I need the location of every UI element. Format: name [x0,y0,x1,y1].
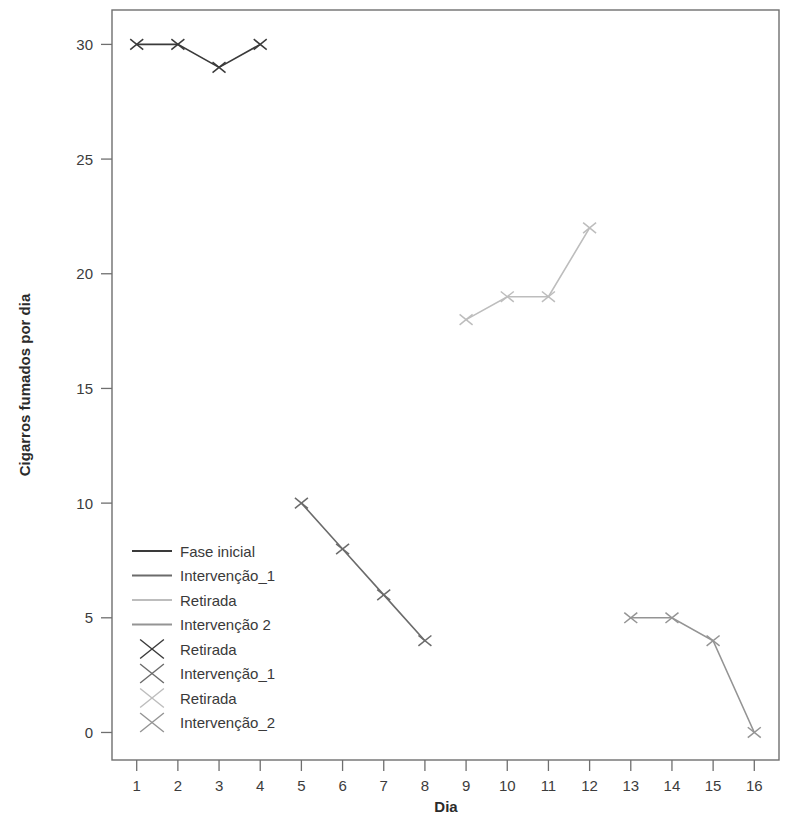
y-tick-label: 5 [85,609,93,626]
data-point-marker [213,62,226,72]
x-tick-label: 15 [705,777,722,794]
legend-item[interactable]: Intervenção_1 [140,664,275,683]
y-tick-label: 25 [76,151,93,168]
x-tick-label: 16 [746,777,763,794]
x-tick-label: 13 [622,777,639,794]
x-tick-label: 3 [215,777,223,794]
legend-item-label: Intervenção_2 [180,714,275,731]
y-axis-title: Cigarros fumados por dia [16,293,33,476]
data-point-marker [377,590,390,600]
data-series [460,223,597,325]
line-chart: 051015202530 12345678910111213141516 Fas… [0,0,797,840]
legend-item[interactable]: Retirada [140,689,237,708]
x-tick-label: 7 [380,777,388,794]
data-point-marker [254,39,267,49]
legend-item-label: Intervenção 2 [180,616,271,633]
x-axis-ticks: 12345678910111213141516 [133,760,763,794]
legend-marker-swatch [140,713,164,732]
series-line [466,228,590,320]
legend-item-label: Retirada [180,641,237,658]
y-tick-label: 10 [76,495,93,512]
x-tick-label: 12 [581,777,598,794]
x-tick-label: 11 [541,777,557,794]
legend-item[interactable]: Retirada [132,592,237,609]
x-tick-label: 8 [421,777,429,794]
data-point-marker [418,636,431,646]
x-tick-label: 5 [297,777,305,794]
x-tick-label: 4 [256,777,264,794]
y-tick-label: 20 [76,265,93,282]
x-tick-label: 1 [133,777,141,794]
data-point-marker [336,544,349,554]
data-series [624,613,761,738]
data-point-marker [295,498,308,508]
data-point-marker [583,223,596,233]
legend-marker-swatch [140,689,164,708]
data-series [130,39,267,72]
legend-item[interactable]: Retirada [140,640,237,659]
legend-marker-swatch [140,640,164,659]
data-point-marker [460,314,473,324]
x-tick-label: 6 [338,777,346,794]
x-tick-label: 14 [664,777,681,794]
legend-item-label: Intervenção_1 [180,665,275,682]
data-point-marker [748,727,761,737]
legend-item[interactable]: Intervenção_1 [132,567,275,584]
legend-item[interactable]: Fase inicial [132,543,255,560]
data-point-marker [707,636,720,646]
legend-item[interactable]: Intervenção 2 [132,616,271,633]
data-series [295,498,432,646]
legend-item-label: Intervenção_1 [180,567,275,584]
chart-legend: Fase inicialIntervenção_1RetiradaInterve… [132,543,275,733]
y-axis-ticks: 051015202530 [76,36,112,741]
legend-item-label: Retirada [180,592,237,609]
legend-item-label: Fase inicial [180,543,255,560]
series-line [631,618,755,733]
legend-item[interactable]: Intervenção_2 [140,713,275,732]
x-tick-label: 9 [462,777,470,794]
x-tick-label: 2 [174,777,182,794]
y-tick-label: 15 [76,380,93,397]
legend-item-label: Retirada [180,690,237,707]
y-tick-label: 0 [85,724,93,741]
legend-marker-swatch [140,664,164,683]
series-line [301,503,425,641]
x-tick-label: 10 [499,777,516,794]
y-tick-label: 30 [76,36,93,53]
series-line [137,44,261,67]
chart-container: 051015202530 12345678910111213141516 Fas… [0,0,797,840]
x-axis-title: Dia [434,798,458,815]
